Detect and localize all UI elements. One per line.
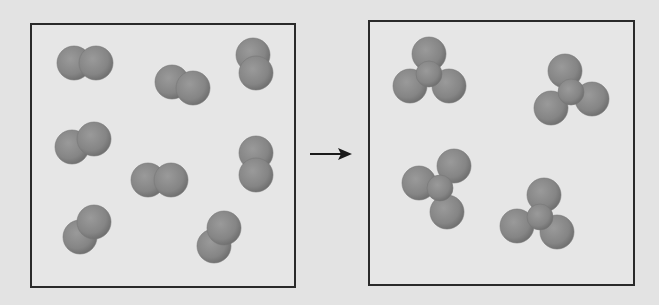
diatomic-molecule: [197, 211, 241, 263]
reaction-arrow-icon: [310, 148, 352, 160]
triatomic-molecule: [402, 149, 471, 229]
atom: [239, 158, 273, 192]
atom: [77, 205, 111, 239]
triatomic-molecule: [534, 54, 609, 125]
diatomic-molecule: [239, 136, 273, 192]
diatomic-molecule: [155, 65, 210, 105]
central-atom: [527, 204, 553, 230]
atom: [207, 211, 241, 245]
triatomic-molecule: [393, 37, 466, 103]
reactant-molecules: [55, 38, 273, 263]
diatomic-molecule: [236, 38, 273, 90]
atom: [77, 122, 111, 156]
atom: [154, 163, 188, 197]
atom: [239, 56, 273, 90]
diatomic-molecule: [57, 46, 113, 80]
central-atom: [558, 79, 584, 105]
atom: [176, 71, 210, 105]
product-molecules: [393, 37, 609, 249]
central-atom: [427, 175, 453, 201]
triatomic-molecule: [500, 178, 574, 249]
diatomic-molecule: [131, 163, 188, 197]
particle-scene: [0, 0, 659, 305]
central-atom: [416, 61, 442, 87]
diatomic-molecule: [63, 205, 111, 254]
atom: [79, 46, 113, 80]
diatomic-molecule: [55, 122, 111, 164]
